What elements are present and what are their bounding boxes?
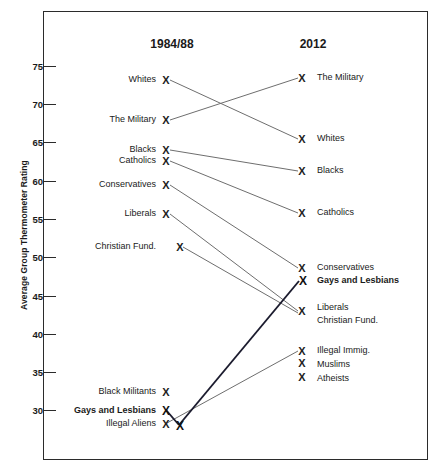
right-label-illegal-immig: Illegal Immig.: [317, 346, 370, 355]
left-label-liberals: Liberals: [124, 209, 156, 218]
left-mark-catholics: X: [162, 156, 169, 167]
right-mark-muslims: X: [298, 358, 305, 369]
left-mark-liberals: X: [162, 209, 169, 220]
right-mark-catholics: X: [298, 208, 305, 219]
right-mark-gays-lesbians: X: [299, 275, 307, 287]
right-label-christian-fund: Christian Fund.: [317, 316, 378, 325]
right-label-whites: Whites: [317, 134, 345, 143]
right-mark-military: X: [298, 73, 305, 84]
left-mark-whites: X: [162, 75, 169, 86]
column-header-left: 1984/88: [150, 37, 193, 51]
right-mark-illegal-immig: X: [298, 346, 305, 357]
right-mark-conservatives: X: [298, 263, 305, 274]
right-label-blacks: Blacks: [317, 166, 344, 175]
right-label-military: The Military: [317, 73, 364, 82]
y-tick-label-50: 50: [13, 252, 43, 263]
y-tick-30: [43, 410, 56, 411]
right-label-gays-lesbians: Gays and Lesbians: [317, 276, 399, 285]
left-label-military: The Military: [109, 115, 156, 124]
right-mark-whites: X: [298, 134, 305, 145]
y-tick-40: [43, 334, 56, 335]
right-mark-liberals: X: [298, 306, 305, 317]
left-label-conservatives: Conservatives: [99, 180, 156, 189]
y-tick-label-55: 55: [13, 214, 43, 225]
left-label-illegal-aliens: Illegal Aliens: [106, 419, 156, 428]
y-tick-label-75: 75: [13, 61, 43, 72]
right-label-liberals: Liberals: [317, 303, 349, 312]
left-label-catholics: Catholics: [119, 156, 156, 165]
right-mark-atheists: X: [298, 372, 305, 383]
right-label-catholics: Catholics: [317, 208, 354, 217]
column-header-right: 2012: [300, 37, 327, 51]
left-label-christian-fund: Christian Fund.: [95, 242, 156, 251]
left-mark-black-militants: X: [162, 387, 169, 398]
y-tick-label-70: 70: [13, 99, 43, 110]
y-tick-60: [43, 181, 56, 182]
left-label-black-militants: Black Militants: [98, 387, 156, 396]
y-tick-65: [43, 142, 56, 143]
left-mark-christian-fund: X: [176, 242, 183, 253]
right-label-atheists: Atheists: [317, 374, 349, 383]
y-tick-50: [43, 257, 56, 258]
y-tick-35: [43, 372, 56, 373]
y-tick-label-35: 35: [13, 367, 43, 378]
y-tick-55: [43, 219, 56, 220]
y-tick-70: [43, 104, 56, 105]
y-tick-label-60: 60: [13, 176, 43, 187]
right-mark-blacks: X: [298, 166, 305, 177]
right-label-conservatives: Conservatives: [317, 263, 374, 272]
left-mark-illegal-aliens: X: [162, 419, 169, 430]
left-label-blacks: Blacks: [129, 145, 156, 154]
y-tick-label-65: 65: [13, 137, 43, 148]
right-label-muslims: Muslims: [317, 360, 350, 369]
y-tick-label-40: 40: [13, 329, 43, 340]
y-tick-45: [43, 296, 56, 297]
left-mark-gays-lesbians-offset: X: [176, 420, 184, 432]
left-mark-conservatives: X: [162, 180, 169, 191]
left-label-whites: Whites: [128, 75, 156, 84]
y-tick-label-30: 30: [13, 405, 43, 416]
y-tick-label-45: 45: [13, 291, 43, 302]
left-mark-military: X: [162, 115, 169, 126]
left-mark-gays-lesbians: X: [162, 405, 170, 417]
y-tick-75: [43, 66, 56, 67]
left-label-gays-lesbians: Gays and Lesbians: [74, 406, 156, 415]
slope-chart: Average Group Thermometer Rating 75 70 6…: [0, 0, 432, 476]
